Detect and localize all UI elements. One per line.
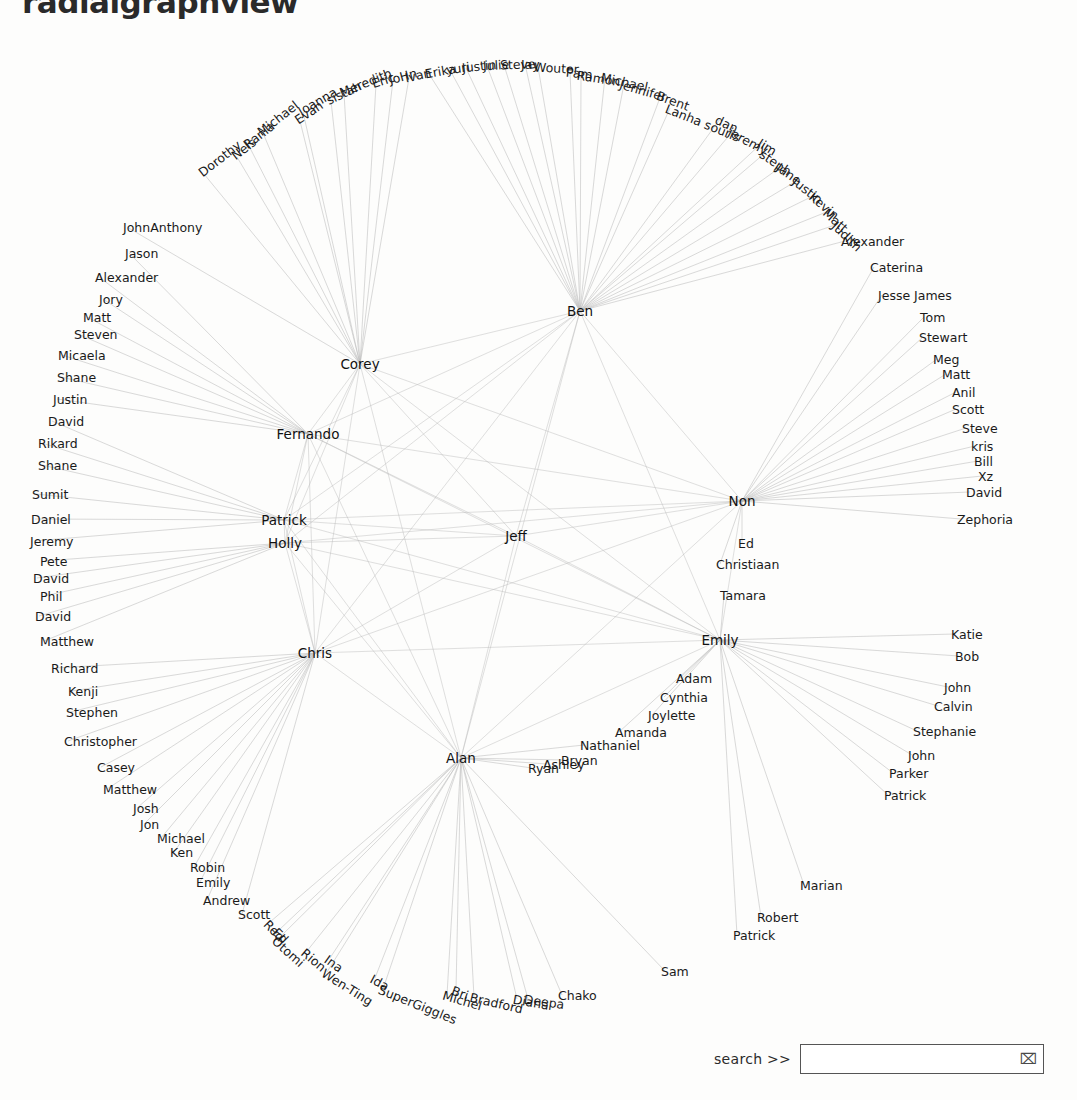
graph-hub-node[interactable]: Non (729, 493, 756, 509)
graph-leaf-node[interactable]: Caterina (870, 260, 923, 275)
graph-leaf-node[interactable]: Matt (83, 310, 111, 325)
graph-leaf-node[interactable]: David (48, 414, 84, 429)
graph-leaf-node[interactable]: Marian (800, 878, 843, 893)
graph-leaf-node[interactable]: Kenji (68, 684, 98, 699)
graph-hub-node[interactable]: Jeff (505, 528, 527, 544)
graph-leaf-node[interactable]: Nathaniel (580, 738, 640, 753)
graph-leaf-node[interactable]: Shane (57, 370, 96, 385)
graph-leaf-node[interactable]: Phil (40, 589, 62, 604)
graph-hub-node[interactable]: Patrick (261, 512, 307, 528)
graph-leaf-node[interactable]: kris (971, 439, 993, 454)
graph-leaf-node[interactable]: Calvin (934, 699, 973, 714)
graph-leaf-node[interactable]: Alexander (95, 270, 158, 285)
graph-leaf-node[interactable]: Steven (74, 327, 118, 342)
graph-leaf-node[interactable]: Christopher (64, 734, 137, 749)
graph-leaf-node[interactable]: Ken (170, 845, 193, 860)
graph-leaf-node[interactable]: Andrew (203, 893, 250, 908)
graph-leaf-node[interactable]: Robert (757, 910, 798, 925)
graph-leaf-node[interactable]: Cynthia (660, 690, 708, 705)
graph-leaf-node[interactable]: Casey (97, 760, 135, 775)
graph-hub-node[interactable]: Chris (298, 645, 332, 661)
graph-leaf-node[interactable]: Patrick (884, 788, 926, 803)
graph-leaf-node[interactable]: Jason (125, 246, 158, 261)
graph-leaf-node[interactable]: Matt (942, 367, 970, 382)
graph-leaf-node[interactable]: Anil (952, 385, 975, 400)
graph-leaf-node[interactable]: Christiaan (716, 557, 779, 572)
graph-leaf-node[interactable]: Jory (99, 292, 123, 307)
graph-leaf-node[interactable]: Richard (51, 661, 98, 676)
search-box[interactable]: ⌧ (800, 1044, 1044, 1074)
graph-leaf-node[interactable]: Steve (962, 421, 998, 436)
graph-leaf-node[interactable]: Scott (238, 907, 270, 922)
graph-leaf-node[interactable]: Robin (190, 860, 225, 875)
search-label: search >> (714, 1051, 791, 1067)
graph-edges (0, 0, 1077, 1030)
graph-leaf-node[interactable]: David (966, 485, 1002, 500)
graph-leaf-node[interactable]: David (35, 609, 71, 624)
graph-leaf-node[interactable]: Bob (955, 649, 979, 664)
graph-leaf-node[interactable]: JohnAnthony (123, 220, 202, 235)
graph-leaf-node[interactable]: Joylette (648, 708, 695, 723)
graph-hub-node[interactable]: Corey (340, 356, 379, 372)
graph-hub-node[interactable]: Alan (446, 750, 476, 766)
graph-leaf-node[interactable]: Matthew (40, 634, 94, 649)
hourglass-icon: ⌧ (1016, 1052, 1037, 1067)
graph-leaf-node[interactable]: Shane (38, 458, 77, 473)
graph-leaf-node[interactable]: Stewart (919, 330, 967, 345)
graph-leaf-node[interactable]: John (944, 680, 971, 695)
graph-leaf-node[interactable]: Pete (40, 554, 67, 569)
graph-leaf-node[interactable]: Sam (661, 964, 689, 979)
graph-leaf-node[interactable]: Patrick (733, 928, 775, 943)
graph-leaf-node[interactable]: Sumit (32, 487, 68, 502)
graph-hub-node[interactable]: Fernando (277, 426, 340, 442)
graph-leaf-node[interactable]: Matthew (103, 782, 157, 797)
graph-leaf-node[interactable]: Alexander (841, 234, 904, 249)
graph-leaf-node[interactable]: Tom (920, 310, 945, 325)
graph-leaf-node[interactable]: Ryan (528, 761, 559, 776)
graph-leaf-node[interactable]: Justin (53, 392, 87, 407)
graph-leaf-node[interactable]: Bill (974, 454, 993, 469)
graph-leaf-node[interactable]: Stephanie (913, 724, 976, 739)
graph-leaf-node[interactable]: Meg (933, 352, 959, 367)
graph-leaf-node[interactable]: Ed (738, 536, 754, 551)
graph-leaf-node[interactable]: Micaela (58, 348, 106, 363)
graph-leaf-node[interactable]: Jeremy (30, 534, 74, 549)
graph-hub-node[interactable]: Emily (701, 632, 738, 648)
graph-leaf-node[interactable]: Stephen (66, 705, 118, 720)
graph-leaf-node[interactable]: Zephoria (957, 512, 1013, 527)
graph-leaf-node[interactable]: Jesse James (878, 288, 952, 303)
search-input[interactable] (807, 1044, 1016, 1074)
graph-leaf-node[interactable]: Emily (196, 875, 230, 890)
graph-hub-node[interactable]: Ben (567, 303, 593, 319)
graph-leaf-node[interactable]: Michael (157, 831, 205, 846)
graph-leaf-node[interactable]: Jon (140, 817, 159, 832)
graph-leaf-node[interactable]: Katie (951, 627, 983, 642)
graph-leaf-node[interactable]: David (33, 571, 69, 586)
graph-leaf-node[interactable]: Rikard (38, 436, 78, 451)
graph-hub-node[interactable]: Holly (268, 535, 302, 551)
graph-leaf-node[interactable]: Josh (133, 801, 159, 816)
graph-leaf-node[interactable]: Scott (952, 402, 984, 417)
graph-leaf-node[interactable]: John (908, 748, 935, 763)
graph-leaf-node[interactable]: Tamara (720, 588, 766, 603)
radial-graph-canvas[interactable]: DorothyNelsRaniaMichaelEvanJoannasistahM… (0, 0, 1077, 1030)
graph-leaf-node[interactable]: Parker (889, 766, 928, 781)
search-bar: search >> ⌧ (714, 1044, 1044, 1074)
graph-leaf-node[interactable]: Daniel (31, 512, 71, 527)
graph-leaf-node[interactable]: Xz (978, 469, 993, 484)
graph-leaf-node[interactable]: Adam (676, 671, 712, 686)
